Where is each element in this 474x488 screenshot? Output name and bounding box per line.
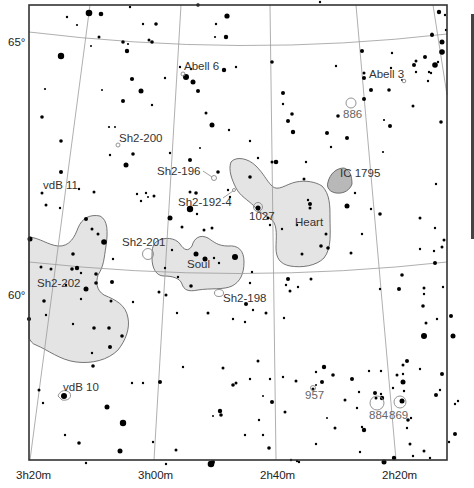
label-sh2-192-4[interactable]: Sh2-192-4 [178, 196, 232, 208]
dec-line-65 [29, 32, 447, 46]
label-ngc-869[interactable]: 869 [389, 409, 408, 421]
label-abell-3[interactable]: Abell 3 [369, 68, 404, 80]
object-markers [58, 72, 406, 410]
label-sh2-200[interactable]: Sh2-200 [119, 132, 162, 144]
star-chart: Abell 6 Abell 3 886 Sh2-200 Sh2-196 IC 1… [0, 0, 474, 488]
ra-label-3h20m: 3h20m [16, 469, 51, 481]
dec-label-60: 60° [8, 289, 25, 301]
label-ngc-886[interactable]: 886 [343, 108, 362, 120]
ra-label-3h00m: 3h00m [138, 469, 173, 481]
abell-6-marker[interactable] [181, 72, 185, 76]
dec-label-65: 65° [8, 36, 25, 48]
label-sh2-196[interactable]: Sh2-196 [157, 165, 200, 177]
label-ngc-884[interactable]: 884 [369, 409, 389, 421]
label-ic-1795[interactable]: IC 1795 [340, 167, 380, 179]
ra-label-2h40m: 2h40m [260, 469, 295, 481]
ngc-886-marker[interactable] [346, 98, 356, 108]
ra-label-2h20m: 2h20m [382, 469, 417, 481]
label-abell-6[interactable]: Abell 6 [184, 60, 219, 72]
label-ngc-1027[interactable]: 1027 [249, 210, 275, 222]
label-soul-nebula[interactable]: Soul [187, 258, 210, 270]
label-heart-nebula[interactable]: Heart [295, 216, 324, 228]
ra-line-3h00m [154, 5, 181, 460]
ra-line-2h00m [433, 5, 447, 95]
nebula-heart [230, 159, 330, 267]
label-vdb-11[interactable]: vdB 11 [43, 179, 78, 191]
ra-line-2h40m [270, 5, 276, 460]
nebula-sh2-202 [29, 216, 129, 363]
label-sh2-198[interactable]: Sh2-198 [223, 292, 266, 304]
label-sh2-202[interactable]: Sh2-202 [37, 277, 80, 289]
label-sh2-201[interactable]: Sh2-201 [122, 236, 165, 248]
sh2-196-marker[interactable] [212, 176, 217, 181]
label-ngc-957[interactable]: 957 [305, 389, 324, 401]
label-vdb-10[interactable]: vdB 10 [63, 381, 99, 393]
